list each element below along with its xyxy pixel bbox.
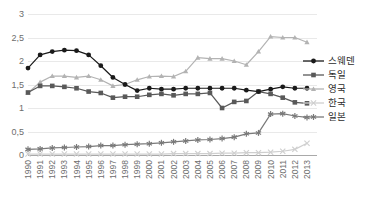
x-tick-label: 2003 (182, 160, 191, 179)
x-tick-label: 2006 (218, 160, 227, 179)
data-point (183, 92, 188, 97)
data-point (244, 99, 249, 104)
data-point (183, 86, 188, 91)
x-tick-label: 1998 (121, 160, 130, 179)
series-korea (25, 141, 309, 157)
data-point (244, 88, 249, 93)
x-tick-label: 1996 (97, 160, 106, 179)
data-point (232, 86, 237, 91)
data-point (171, 87, 176, 92)
legend-label: 독일 (326, 70, 346, 80)
legend-item-united-kingdom[interactable]: 영국 (302, 82, 375, 96)
x-tick-label: 2009 (254, 160, 263, 179)
series-japan (25, 111, 309, 153)
legend-label: 영국 (326, 84, 346, 94)
legend-marker-icon (302, 96, 326, 110)
series-germany (26, 84, 310, 111)
x-tick-label: 1991 (36, 160, 45, 179)
data-point (280, 84, 285, 89)
legend-item-japan[interactable]: 일본 (302, 110, 375, 124)
data-point (123, 82, 128, 87)
x-tick-label: 1993 (60, 160, 69, 179)
legend-item-korea[interactable]: 한국 (302, 96, 375, 110)
x-tick-label: 2005 (206, 160, 215, 179)
data-point (159, 92, 164, 97)
data-point (171, 93, 176, 98)
data-point (135, 94, 140, 99)
x-tick-label: 1990 (24, 160, 33, 179)
data-point (293, 100, 298, 105)
data-point (38, 52, 43, 57)
data-point (232, 100, 237, 105)
x-tick-label: 2001 (157, 160, 166, 179)
data-point (123, 94, 128, 99)
data-point (135, 88, 140, 93)
data-point (111, 75, 116, 80)
series-line (28, 114, 307, 150)
x-tick-label: 2011 (279, 160, 288, 178)
data-point (147, 86, 152, 91)
x-tick-label: 1994 (73, 160, 82, 179)
data-point (50, 84, 55, 89)
data-point (147, 93, 152, 98)
data-point (195, 86, 200, 91)
data-point (208, 91, 213, 96)
x-tick-label: 1999 (133, 160, 142, 179)
series-line (28, 37, 307, 93)
legend-item-sweden[interactable]: 스웨덴 (302, 54, 375, 68)
data-point (38, 84, 43, 89)
data-point (50, 49, 55, 54)
data-point (220, 106, 225, 111)
legend-marker-icon (302, 54, 326, 68)
data-point (62, 48, 67, 53)
data-point (98, 91, 103, 96)
x-tick-label: 1992 (48, 160, 57, 179)
x-tick-label: 1997 (109, 160, 118, 179)
x-tick-label: 2010 (267, 160, 276, 179)
legend-label: 한국 (326, 98, 346, 108)
data-point (268, 92, 273, 97)
x-tick-label: 2000 (145, 160, 154, 179)
data-point (304, 141, 309, 146)
legend-marker-icon (302, 110, 326, 124)
data-point (26, 90, 31, 95)
data-point (111, 95, 116, 100)
data-point (208, 86, 213, 91)
chart-legend: 스웨덴독일영국한국일본 (302, 54, 375, 124)
legend-marker-icon (302, 68, 326, 82)
legend-label: 스웨덴 (326, 56, 355, 66)
data-point (74, 48, 79, 53)
x-tick-label: 2008 (242, 160, 251, 179)
x-tick-label: 1995 (85, 160, 94, 179)
data-point (159, 87, 164, 92)
data-point (62, 85, 67, 90)
chart-root: 00,511,522,53 19901991199219931994199519… (0, 0, 375, 207)
data-point (256, 89, 261, 94)
series-united-kingdom (25, 34, 309, 95)
x-tick-label: 2002 (170, 160, 179, 179)
x-tick-label: 2007 (230, 160, 239, 179)
legend-item-germany[interactable]: 독일 (302, 68, 375, 82)
data-point (26, 66, 31, 71)
data-point (74, 86, 79, 91)
data-point (98, 63, 103, 68)
data-point (268, 87, 273, 92)
x-tick-label: 2004 (194, 160, 203, 179)
data-point (220, 86, 225, 91)
data-point (280, 95, 285, 100)
data-point (196, 92, 201, 97)
data-point (86, 52, 91, 57)
line-chart: 00,511,522,53 19901991199219931994199519… (0, 0, 375, 207)
data-point (86, 89, 91, 94)
x-tick-label: 2012 (291, 160, 300, 179)
series-line (28, 50, 307, 91)
x-tick-label: 2013 (303, 160, 312, 179)
legend-label: 일본 (326, 112, 346, 122)
data-point (292, 86, 297, 91)
legend-marker-icon (302, 82, 326, 96)
series-line (28, 143, 307, 154)
